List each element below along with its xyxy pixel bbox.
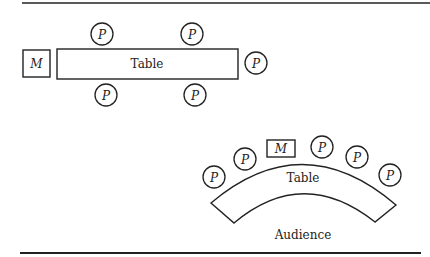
curved-table-label: Table [287, 171, 320, 185]
participant: P [346, 146, 368, 168]
participant: P [245, 52, 267, 74]
svg-text:P: P [190, 89, 200, 103]
curved-layout: M Table P P P P P Audience [203, 136, 401, 242]
participant: P [379, 164, 401, 186]
participant: P [311, 136, 333, 158]
participant: P [181, 23, 203, 45]
participant: P [203, 166, 225, 188]
svg-text:P: P [352, 151, 362, 165]
participant: P [91, 23, 113, 45]
participant: P [184, 84, 206, 106]
moderator-label: M [29, 57, 43, 71]
participant: P [234, 148, 256, 170]
svg-text:P: P [187, 28, 197, 42]
moderator-label: M [274, 142, 288, 156]
svg-text:P: P [251, 57, 261, 71]
seating-diagram: M Table P P P P P M Table P P P P P Audi… [0, 0, 430, 257]
svg-text:P: P [101, 89, 111, 103]
svg-text:P: P [317, 141, 327, 155]
rectangular-layout: M Table P P P P P [23, 23, 267, 106]
audience-label: Audience [274, 228, 332, 242]
svg-text:P: P [97, 28, 107, 42]
svg-text:P: P [385, 169, 395, 183]
svg-text:P: P [209, 171, 219, 185]
svg-text:P: P [240, 153, 250, 167]
rect-table-label: Table [131, 57, 164, 71]
participant: P [95, 84, 117, 106]
